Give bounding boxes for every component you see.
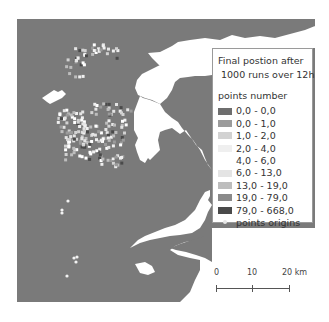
- legend-item-label: 0,0 - 1,0: [236, 119, 276, 129]
- drift-point: [64, 117, 67, 120]
- drift-point: [115, 156, 118, 159]
- drift-point: [107, 146, 110, 149]
- legend-item: 79,0 - 668,0: [218, 204, 300, 216]
- drift-point: [106, 131, 109, 134]
- drift-point: [115, 47, 118, 50]
- origin-point: [60, 208, 63, 211]
- drift-point: [93, 43, 96, 46]
- legend-item: 6,0 - 13,0: [218, 167, 300, 179]
- drift-point: [74, 131, 77, 134]
- drift-point: [97, 130, 100, 133]
- legend-item-origins: points origins: [218, 217, 300, 229]
- drift-point: [65, 65, 68, 68]
- legend-swatch: [218, 132, 232, 139]
- drift-point: [66, 114, 69, 117]
- drift-point: [115, 163, 118, 166]
- drift-point: [123, 132, 126, 135]
- drift-point: [113, 124, 116, 127]
- legend-items: 0,0 - 0,0 0,0 - 1,0 1,0 - 2,0 2,0 - 4,0 …: [218, 105, 300, 229]
- scale-label-10: 10: [247, 268, 257, 277]
- drift-point: [121, 136, 124, 139]
- legend-item: 2,0 - 4,0: [218, 142, 300, 154]
- legend-swatch: [218, 108, 232, 115]
- drift-point: [104, 143, 107, 146]
- legend-swatch: [218, 194, 232, 201]
- drift-point: [65, 136, 68, 139]
- drift-point: [94, 125, 97, 128]
- origin-point: [75, 255, 78, 258]
- drift-point: [93, 49, 96, 52]
- drift-point: [78, 155, 81, 158]
- drift-point: [112, 134, 115, 137]
- legend-item-label: 6,0 - 13,0: [236, 168, 282, 178]
- drift-point: [107, 134, 110, 137]
- drift-point: [73, 151, 76, 154]
- drift-point: [82, 75, 85, 78]
- legend-title: Final postion after 1000 runs over 12h: [218, 54, 314, 82]
- origin-point: [65, 274, 68, 277]
- drift-point: [112, 162, 115, 165]
- drift-point: [67, 145, 70, 148]
- scale-label-20: 20 km: [282, 268, 307, 277]
- scale-bar: 0 10 20 km: [214, 268, 314, 298]
- drift-point: [91, 53, 94, 56]
- drift-point: [119, 143, 122, 146]
- drift-point: [90, 140, 93, 143]
- drift-point: [68, 138, 71, 141]
- drift-point: [65, 121, 68, 124]
- drift-point: [69, 131, 72, 134]
- drift-point: [81, 111, 84, 114]
- legend-subtitle: points number: [218, 91, 287, 101]
- drift-point: [120, 126, 123, 129]
- drift-point: [120, 156, 123, 159]
- legend-item: 1,0 - 2,0: [218, 130, 300, 142]
- origin-dot-icon: [218, 219, 232, 226]
- drift-point: [107, 48, 110, 51]
- drift-point: [112, 144, 115, 147]
- drift-point: [70, 114, 73, 117]
- drift-point: [100, 163, 103, 166]
- drift-point: [130, 110, 133, 113]
- scale-tick: [252, 285, 253, 292]
- drift-point: [60, 117, 63, 120]
- drift-point: [83, 125, 86, 128]
- drift-point: [78, 75, 81, 78]
- drift-point: [81, 49, 84, 52]
- drift-point: [85, 54, 88, 57]
- drift-point: [78, 125, 81, 128]
- legend-swatch: [218, 120, 232, 127]
- drift-point: [65, 153, 68, 156]
- drift-point: [113, 141, 116, 144]
- drift-point: [77, 121, 80, 124]
- drift-point: [102, 44, 105, 47]
- drift-point: [122, 139, 125, 142]
- legend-title-line2: 1000 runs over 12h: [218, 68, 314, 82]
- drift-point: [107, 125, 110, 128]
- drift-point: [64, 158, 67, 161]
- drift-point: [77, 130, 80, 133]
- drift-point: [75, 59, 78, 62]
- legend-swatch: [218, 157, 232, 164]
- drift-point: [93, 103, 96, 106]
- drift-point: [81, 116, 84, 119]
- drift-point: [106, 52, 109, 55]
- legend-swatch: [218, 145, 232, 152]
- drift-point: [108, 113, 111, 116]
- legend-title-line1: Final postion after: [218, 54, 314, 68]
- origin-point: [60, 211, 63, 214]
- drift-point: [90, 111, 93, 114]
- drift-point: [115, 103, 118, 106]
- legend-swatch: [218, 182, 232, 189]
- drift-point: [89, 126, 92, 129]
- drift-point: [83, 139, 86, 142]
- drift-point: [63, 126, 66, 129]
- drift-point: [112, 50, 115, 53]
- drift-point: [101, 158, 104, 161]
- scale-label-0: 0: [214, 268, 219, 277]
- drift-point: [94, 108, 97, 111]
- drift-point: [100, 131, 103, 134]
- drift-point: [69, 135, 72, 138]
- drift-point: [68, 72, 71, 75]
- drift-point: [92, 150, 95, 153]
- legend-item: 0,0 - 1,0: [218, 117, 300, 129]
